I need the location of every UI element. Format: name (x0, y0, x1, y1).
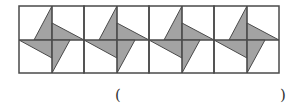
pinwheel-blade (117, 23, 149, 40)
pinwheel-tile (84, 6, 149, 73)
pinwheel-blade (52, 23, 84, 40)
pinwheel-blade (34, 6, 52, 40)
pinwheel-blade (182, 40, 200, 73)
pinwheel-pattern-figure (0, 0, 297, 80)
pinwheel-tile (214, 6, 279, 73)
pinwheel-blade (247, 23, 279, 40)
pinwheel-blade (229, 6, 247, 40)
pinwheel-blade (149, 40, 182, 58)
pinwheel-blade (247, 40, 265, 73)
pinwheel-tile (149, 6, 214, 73)
pinwheel-blade (52, 40, 70, 73)
pinwheel-blade (19, 40, 52, 58)
answer-open-paren: ( (115, 88, 121, 103)
pinwheel-blade (214, 40, 247, 58)
answer-close-paren: ) (280, 88, 286, 103)
pinwheel-tile (19, 6, 84, 73)
pinwheel-blade (164, 6, 182, 40)
pinwheel-blade (99, 6, 117, 40)
pinwheel-blade (182, 23, 214, 40)
pinwheel-blade (117, 40, 135, 73)
pinwheel-blade (84, 40, 117, 58)
